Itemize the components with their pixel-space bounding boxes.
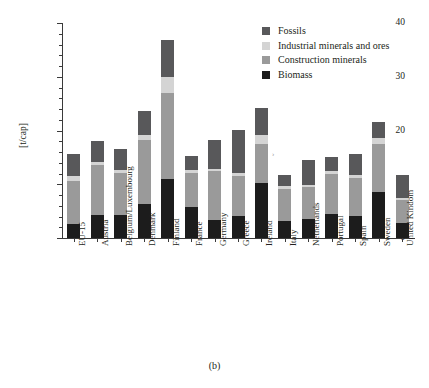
y-tick-minor xyxy=(59,217,62,218)
x-tick xyxy=(238,238,239,242)
x-tick xyxy=(215,238,216,242)
legend-label: Construction minerals xyxy=(278,55,367,65)
x-tick xyxy=(121,238,122,242)
bar-segment xyxy=(349,154,362,175)
bar-stack[interactable] xyxy=(161,40,174,238)
stray-mark: · xyxy=(225,228,227,236)
y-tick-minor xyxy=(59,45,62,46)
y-tick-major xyxy=(57,238,62,239)
y-tick-minor xyxy=(59,98,62,99)
bar-segment xyxy=(232,176,245,216)
bar-segment xyxy=(67,154,80,177)
x-tick-label: Greece xyxy=(242,221,251,246)
x-tick-label: Sweden xyxy=(383,218,392,247)
y-tick-minor xyxy=(59,88,62,89)
x-tick xyxy=(308,238,309,242)
x-tick-label: Netherlands xyxy=(312,203,321,246)
bar-segment xyxy=(138,140,151,204)
x-tick xyxy=(74,238,75,242)
x-tick-label: France xyxy=(195,222,204,247)
legend-item[interactable]: Fossils xyxy=(262,24,422,39)
x-tick xyxy=(261,238,262,242)
x-tick-label: Belgium/Luxembourg xyxy=(125,166,134,246)
y-tick-minor xyxy=(59,174,62,175)
bar-segment xyxy=(278,189,291,222)
y-tick-minor xyxy=(59,227,62,228)
legend-item[interactable]: Construction minerals xyxy=(262,53,422,68)
legend-label: Fossils xyxy=(278,26,306,36)
x-tick-label: United Kindom xyxy=(406,190,415,246)
legend-label: Biomass xyxy=(278,70,312,80)
legend-swatch-icon xyxy=(262,42,270,50)
y-tick-minor xyxy=(59,55,62,56)
x-tick-label: Spain xyxy=(359,225,368,246)
stray-mark: › xyxy=(272,150,274,158)
bar-segment xyxy=(372,144,385,192)
y-tick-minor xyxy=(59,66,62,67)
bar-segment xyxy=(185,156,198,170)
chart-legend: FossilsIndustrial minerals and oresConst… xyxy=(262,24,422,82)
figure-caption: (b) xyxy=(0,360,429,371)
bar-segment xyxy=(185,173,198,207)
x-tick-label: Austria xyxy=(101,220,110,247)
x-tick xyxy=(402,238,403,242)
x-tick-label: Finland xyxy=(172,218,181,246)
x-tick xyxy=(332,238,333,242)
y-tick-minor xyxy=(59,109,62,110)
bar-segment xyxy=(325,174,338,215)
x-tick-label: Denmark xyxy=(148,213,157,247)
bar-segment xyxy=(161,40,174,78)
legend-item[interactable]: Biomass xyxy=(262,68,422,83)
bar-segment xyxy=(255,135,268,144)
bar-segment xyxy=(232,130,245,173)
bar-stack[interactable] xyxy=(255,108,268,238)
y-tick-minor xyxy=(59,206,62,207)
y-tick-label: 20 xyxy=(396,126,406,136)
x-tick xyxy=(191,238,192,242)
x-tick-label: EU-15 xyxy=(78,222,87,246)
legend-swatch-icon xyxy=(262,56,270,64)
legend-label: Industrial minerals and ores xyxy=(278,41,389,51)
bar-segment xyxy=(138,111,151,135)
bar-segment xyxy=(372,122,385,138)
legend-swatch-icon xyxy=(262,71,270,79)
y-tick-major xyxy=(57,131,62,132)
bar-segment xyxy=(302,160,315,185)
y-axis-label: [t/cap] xyxy=(18,123,28,148)
bar-segment xyxy=(255,144,268,182)
x-tick xyxy=(144,238,145,242)
x-tick-label: Italy xyxy=(289,230,298,247)
legend-item[interactable]: Industrial minerals and ores xyxy=(262,39,422,54)
bar-segment xyxy=(349,178,362,216)
y-tick-minor xyxy=(59,163,62,164)
bar-segment xyxy=(278,175,291,186)
bar-segment xyxy=(91,165,104,216)
bar-segment xyxy=(161,77,174,93)
legend-swatch-icon xyxy=(262,27,270,35)
x-tick xyxy=(355,238,356,242)
y-tick-minor xyxy=(59,152,62,153)
y-tick-major xyxy=(57,23,62,24)
bar-segment xyxy=(208,140,221,168)
x-tick xyxy=(97,238,98,242)
bar-segment xyxy=(67,181,80,224)
bar-segment xyxy=(91,141,104,163)
y-tick-minor xyxy=(59,34,62,35)
bar-segment xyxy=(255,108,268,135)
y-tick-major xyxy=(57,184,62,185)
figure-panel-b: [t/cap] 010203040EU-15AustriaBelgium/Lux… xyxy=(0,0,429,388)
y-tick-minor xyxy=(59,195,62,196)
y-tick-major xyxy=(57,77,62,78)
x-tick-label: Ireland xyxy=(265,221,274,246)
x-tick xyxy=(285,238,286,242)
bar-segment xyxy=(325,157,338,171)
bar-segment xyxy=(161,93,174,180)
y-tick-minor xyxy=(59,141,62,142)
x-tick xyxy=(379,238,380,242)
x-tick xyxy=(168,238,169,242)
x-tick-label: Portugal xyxy=(336,216,345,247)
y-tick-minor xyxy=(59,120,62,121)
